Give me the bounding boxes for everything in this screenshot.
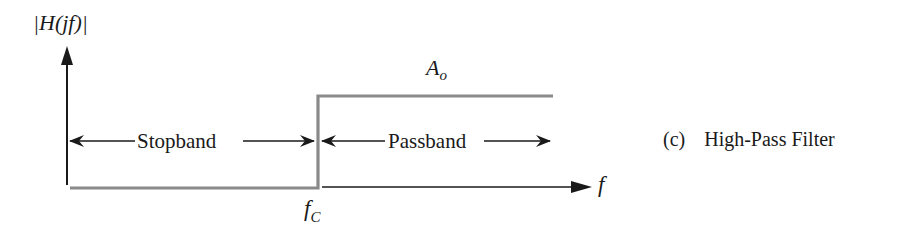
gain-label: Ao (426, 55, 447, 84)
caption-text: High-Pass Filter (704, 128, 835, 150)
gain-label-sub: o (439, 67, 447, 83)
figure-caption: (c) High-Pass Filter (663, 128, 835, 151)
y-axis-label: |H(jf)| (33, 10, 88, 36)
x-axis-label: f (598, 172, 604, 198)
stopband-label: Stopband (137, 129, 216, 154)
caption-letter: (c) (663, 128, 685, 150)
gain-label-main: A (426, 55, 439, 80)
passband-label: Passband (388, 129, 466, 154)
cutoff-label-sub: C (310, 209, 320, 225)
cutoff-frequency-label: fC (304, 196, 320, 226)
y-axis-arrowhead-icon (61, 46, 73, 65)
x-axis-arrowhead-icon (571, 181, 592, 193)
filter-diagram (0, 0, 921, 235)
y-axis-label-text: |H(jf)| (33, 10, 88, 35)
